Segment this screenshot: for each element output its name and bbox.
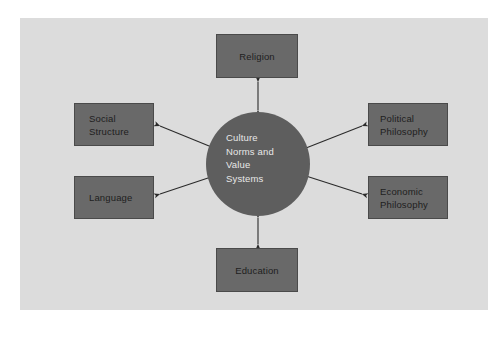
- node-education[interactable]: Education: [216, 248, 298, 292]
- connector-language: [160, 176, 214, 194]
- node-language[interactable]: Language: [74, 176, 154, 219]
- node-economic-philosophy[interactable]: Economic Philosophy: [368, 176, 448, 219]
- culture-determinants-diagram: Religion Social Structure Language Polit…: [0, 0, 503, 337]
- node-political-philosophy-label: Political Philosophy: [369, 112, 447, 138]
- node-religion-label: Religion: [217, 50, 297, 63]
- node-social-structure-label: Social Structure: [75, 112, 153, 138]
- connector-social-structure: [160, 126, 214, 148]
- node-religion[interactable]: Religion: [216, 34, 298, 78]
- hub-circle: [206, 112, 310, 216]
- node-language-label: Language: [75, 191, 153, 204]
- connector-political-philosophy: [306, 126, 362, 148]
- node-social-structure[interactable]: Social Structure: [74, 103, 154, 146]
- node-education-label: Education: [217, 264, 297, 277]
- node-political-philosophy[interactable]: Political Philosophy: [368, 103, 448, 146]
- node-economic-philosophy-label: Economic Philosophy: [369, 185, 447, 211]
- connector-economic-philosophy: [306, 176, 362, 194]
